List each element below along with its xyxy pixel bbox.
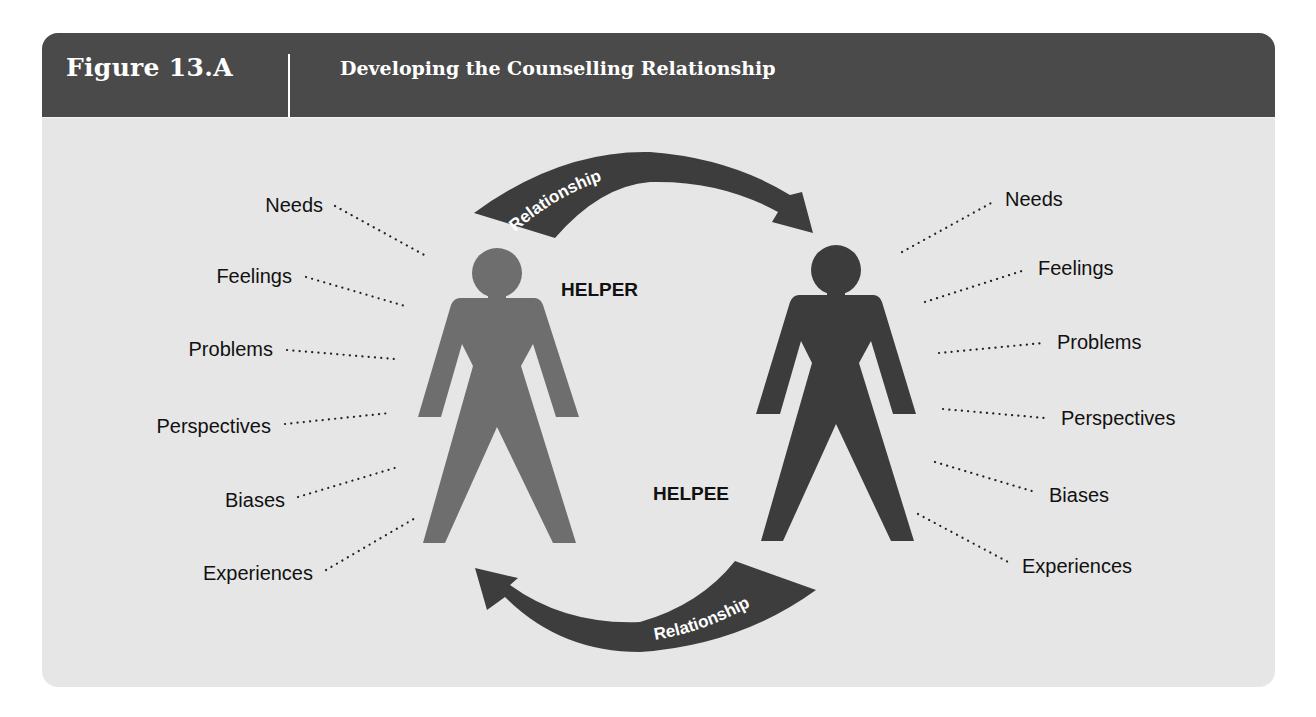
leader-line <box>335 206 428 257</box>
helper-attr-biases: Biases <box>225 489 285 511</box>
helper-attr-feelings: Feelings <box>216 265 292 287</box>
helper-figure <box>418 248 579 543</box>
helper-label: HELPER <box>561 279 638 300</box>
helpee-attr-experiences: Experiences <box>1022 555 1132 577</box>
leader-line <box>943 409 1045 418</box>
relationship-arrow-bottom: Relationship <box>475 561 816 652</box>
helper-attr-problems: Problems <box>189 338 273 360</box>
helper-attr-perspectives: Perspectives <box>157 415 272 437</box>
helper-attr-needs: Needs <box>265 194 323 216</box>
helper-body-icon <box>418 292 579 543</box>
leader-line <box>285 413 390 424</box>
helpee-attributes: Needs Feelings Problems Perspectives Bia… <box>902 188 1176 577</box>
helpee-attr-perspectives: Perspectives <box>1061 407 1176 429</box>
helpee-body-icon <box>756 289 916 541</box>
helpee-head-icon <box>811 245 861 295</box>
leader-line <box>298 467 398 497</box>
leader-line <box>287 350 394 359</box>
helpee-attr-problems: Problems <box>1057 331 1141 353</box>
helper-head-icon <box>472 248 522 298</box>
helpee-label: HELPEE <box>653 483 729 504</box>
leader-line <box>918 514 1010 563</box>
helpee-figure <box>756 245 916 541</box>
helpee-attr-feelings: Feelings <box>1038 257 1114 279</box>
leader-line <box>939 343 1043 353</box>
leader-line <box>935 462 1035 492</box>
helper-attributes: Needs Feelings Problems Perspectives Bia… <box>157 194 429 584</box>
helpee-attr-needs: Needs <box>1005 188 1063 210</box>
leader-line <box>326 517 417 570</box>
arrow-bottom-icon <box>475 561 816 652</box>
leader-line <box>902 202 993 252</box>
leader-line <box>306 277 405 306</box>
relationship-diagram: Relationship Relationship HELPER HELPEE … <box>0 0 1316 717</box>
relationship-arrow-top: Relationship <box>474 152 813 238</box>
leader-line <box>925 270 1025 302</box>
helper-attr-experiences: Experiences <box>203 562 313 584</box>
helpee-attr-biases: Biases <box>1049 484 1109 506</box>
